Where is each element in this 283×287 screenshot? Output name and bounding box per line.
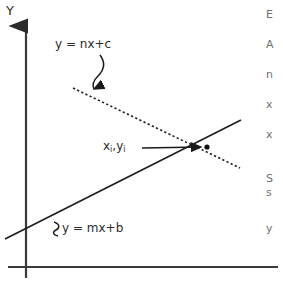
line-dashed-nx-c bbox=[73, 88, 240, 168]
dashed-line-pointer-arrow bbox=[93, 55, 104, 89]
side-text-line: S bbox=[266, 172, 273, 185]
side-text-line: s bbox=[266, 186, 272, 199]
solid-line-pointer-squiggle bbox=[54, 222, 59, 236]
side-text-line: A bbox=[266, 38, 274, 51]
y-axis-label: Y bbox=[6, 4, 14, 17]
side-text-line: E bbox=[266, 8, 273, 21]
line-intersection-diagram bbox=[0, 0, 283, 287]
intersection-coordinates-label: xi,yi bbox=[103, 140, 126, 152]
side-text-line: y bbox=[266, 222, 273, 235]
intersection-y-subscript: i bbox=[123, 145, 125, 154]
figure-canvas: Y y = nx+c y = mx+b xi,yi E A n x x S s … bbox=[0, 0, 283, 287]
side-text-line: x bbox=[266, 98, 273, 111]
side-text-line: x bbox=[266, 128, 273, 141]
intersection-point-marker bbox=[204, 144, 209, 149]
intersection-pointer-arrow bbox=[142, 147, 201, 148]
side-text-column: E A n x x S s y bbox=[266, 0, 283, 287]
solid-line-equation-label: y = mx+b bbox=[62, 222, 123, 234]
dashed-line-equation-label: y = nx+c bbox=[55, 38, 111, 50]
side-text-line: n bbox=[266, 68, 273, 81]
